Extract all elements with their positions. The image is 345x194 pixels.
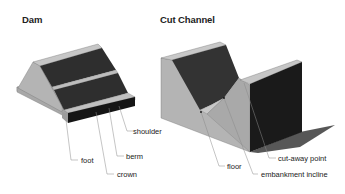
- illustration: [0, 0, 345, 194]
- label-shoulder: shoulder: [133, 127, 162, 136]
- cut-channel-illustration: [161, 42, 335, 153]
- label-berm: berm: [126, 152, 143, 161]
- label-foot: foot: [81, 156, 94, 165]
- dam-title: Dam: [22, 14, 42, 25]
- label-floor: floor: [227, 162, 242, 171]
- label-cut-away-point: cut-away point: [278, 154, 326, 163]
- label-embankment-incline: embankment incline: [261, 170, 328, 179]
- dam-illustration: [17, 44, 135, 123]
- cut-channel-title: Cut Channel: [160, 14, 215, 25]
- incline-marker: [223, 97, 225, 99]
- label-crown: crown: [117, 170, 137, 179]
- diagram-canvas: Dam Cut Channel shoulder berm foot crown…: [0, 0, 345, 194]
- floor-marker: [200, 111, 202, 113]
